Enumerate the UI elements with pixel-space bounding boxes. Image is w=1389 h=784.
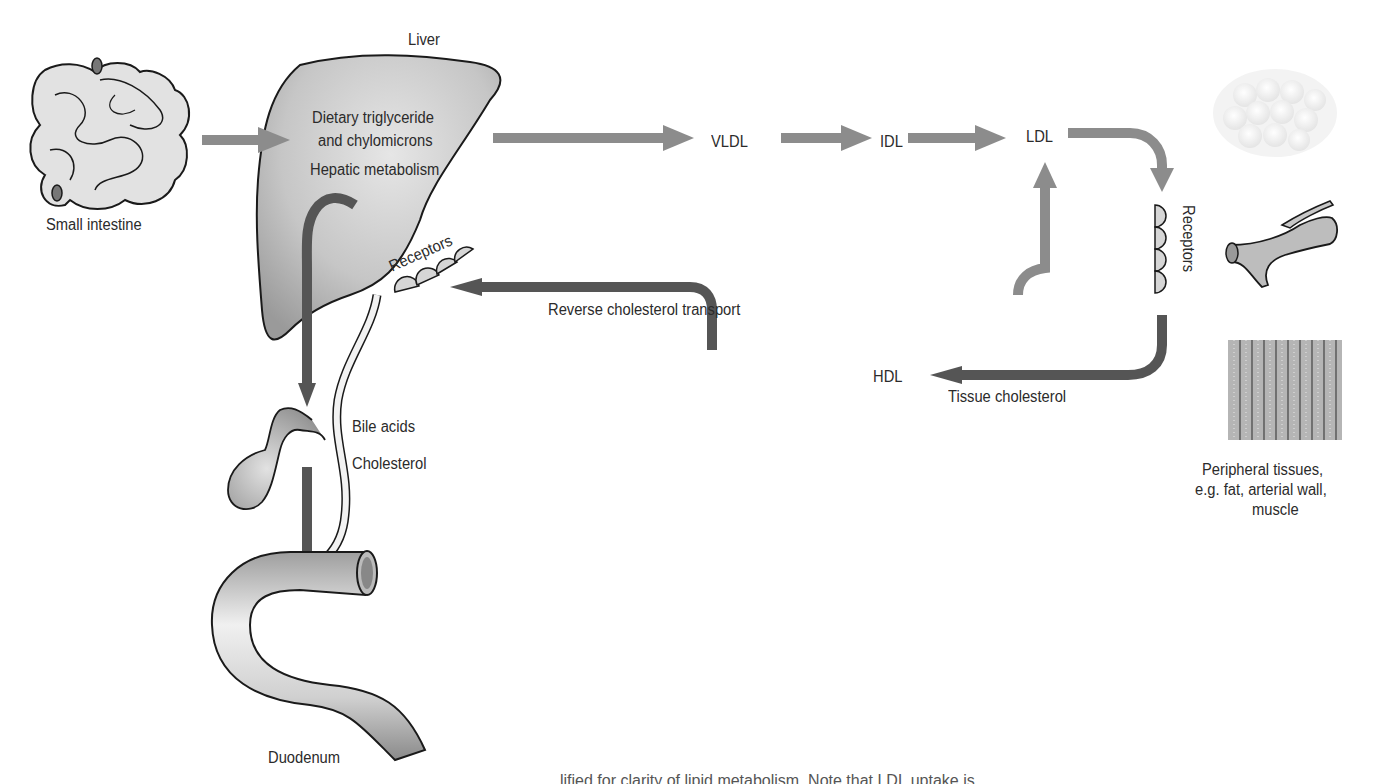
peripheral-tissues-label-line2: e.g. fat, arterial wall,: [1195, 480, 1327, 499]
figure-caption-partial: lified for clarity of lipid metabolism. …: [560, 770, 975, 784]
reverse-transport-label: Reverse cholesterol transport: [548, 300, 740, 319]
peripheral-tissues-label-line3: muscle: [1252, 500, 1299, 519]
duodenum-label: Duodenum: [268, 748, 340, 767]
cholesterol-label: Cholesterol: [352, 454, 426, 473]
peripheral-receptors-label: Receptors: [1179, 205, 1198, 272]
duodenum-illustration: [212, 551, 425, 760]
peripheral-receptors: [1155, 205, 1166, 293]
vldl-label: VLDL: [711, 132, 748, 151]
artery-illustration: [1226, 201, 1337, 287]
hdl-label: HDL: [873, 367, 902, 386]
liver-text-line3: Hepatic metabolism: [310, 160, 439, 179]
liver-label: Liver: [408, 30, 440, 49]
liver-text-line2: and chylomicrons: [318, 131, 433, 150]
lipid-metabolism-diagram: [0, 0, 1389, 784]
liver-text-line1: Dietary triglyceride: [312, 108, 434, 127]
small-intestine-illustration: [30, 58, 189, 209]
idl-label: IDL: [880, 132, 903, 151]
peripheral-tissues-label-line1: Peripheral tissues,: [1202, 460, 1323, 479]
adipose-tissue-illustration: [1213, 69, 1337, 157]
muscle-tissue-illustration: [1228, 340, 1342, 440]
bile-acids-label: Bile acids: [352, 417, 415, 436]
ldl-label: LDL: [1026, 127, 1053, 146]
small-intestine-label: Small intestine: [46, 215, 142, 234]
tissue-cholesterol-label: Tissue cholesterol: [948, 387, 1066, 406]
